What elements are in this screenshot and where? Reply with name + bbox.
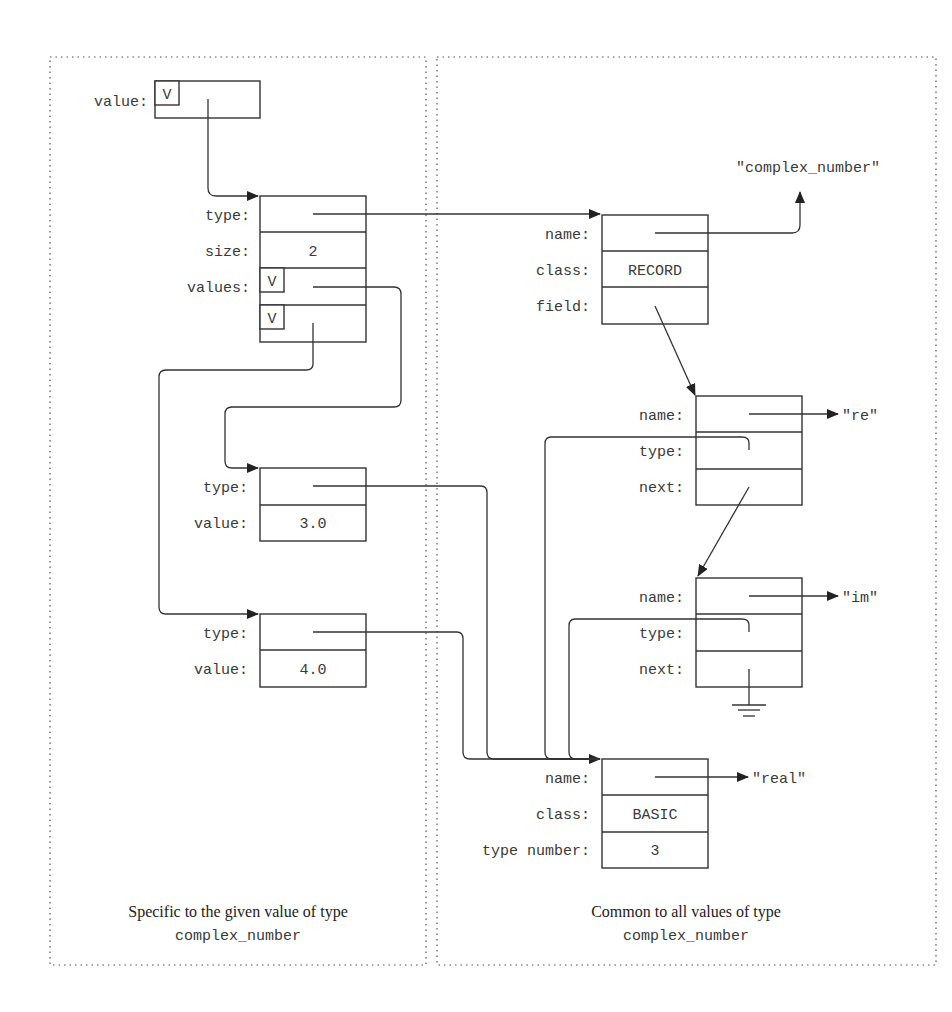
basic-descriptor: name: class: BASIC type number: 3 — [482, 759, 708, 868]
element-box-1: type: value: 3.0 — [194, 468, 366, 541]
right-caption-line2: complex_number — [623, 928, 749, 945]
left-caption-line1: Specific to the given value of type — [128, 903, 347, 921]
basic-name-label: name: — [545, 771, 590, 788]
basic-type-number-label: type number: — [482, 843, 590, 860]
basic-class-value: BASIC — [632, 807, 677, 824]
record-name-label: name: — [545, 227, 590, 244]
root-value-tag: V — [162, 87, 171, 104]
array-size-value: 2 — [308, 244, 317, 261]
real-string: "real" — [752, 771, 806, 788]
complex-number-string: "complex_number" — [736, 160, 880, 177]
im-name-label: name: — [639, 590, 684, 607]
memory-layout-diagram: value: V type: size: 2 values: V V type:… — [0, 0, 952, 1012]
elem1-value-label: value: — [194, 516, 248, 533]
right-caption-line1: Common to all values of type — [591, 903, 781, 921]
array-size-label: size: — [205, 244, 250, 261]
root-value-label: value: — [94, 94, 148, 111]
basic-type-number-value: 3 — [650, 843, 659, 860]
root-value-cell: value: V — [94, 81, 260, 118]
record-class-label: class: — [536, 263, 590, 280]
field-im-box: name: type: next: — [639, 578, 802, 687]
array-values-label: values: — [187, 280, 250, 297]
field-re-box: name: type: next: — [639, 396, 802, 505]
record-descriptor: name: class: RECORD field: — [536, 215, 708, 324]
elem1-value: 3.0 — [299, 516, 326, 533]
elem1-type-label: type: — [203, 480, 248, 497]
elem2-value-label: value: — [194, 662, 248, 679]
basic-class-label: class: — [536, 807, 590, 824]
elem2-type-label: type: — [203, 626, 248, 643]
values-tag-1: V — [267, 274, 276, 291]
re-name-label: name: — [639, 408, 684, 425]
values-tag-2: V — [267, 311, 276, 328]
record-field-label: field: — [536, 299, 590, 316]
elem2-value: 4.0 — [299, 662, 326, 679]
re-type-label: type: — [639, 444, 684, 461]
im-type-label: type: — [639, 626, 684, 643]
element-box-2: type: value: 4.0 — [194, 614, 366, 687]
record-class-value: RECORD — [628, 263, 682, 280]
array-descriptor: type: size: 2 values: V V — [187, 196, 366, 342]
re-next-label: next: — [639, 480, 684, 497]
left-caption-line2: complex_number — [175, 928, 301, 945]
left-panel — [50, 57, 426, 965]
re-string: "re" — [842, 408, 878, 425]
im-next-label: next: — [639, 662, 684, 679]
im-string: "im" — [842, 590, 878, 607]
array-type-label: type: — [205, 208, 250, 225]
